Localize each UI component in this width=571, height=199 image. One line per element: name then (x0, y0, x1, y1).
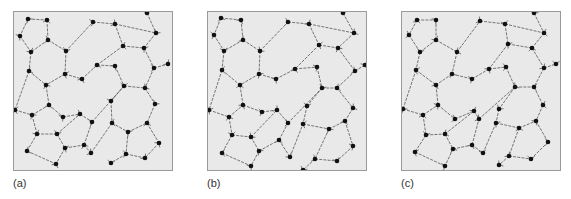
network-panel-b (207, 11, 367, 171)
hydrogen-bond (66, 22, 93, 51)
molecule-node (553, 61, 560, 66)
hydrogen-bond (229, 117, 232, 135)
hydrogen-bond (251, 110, 277, 137)
molecule-node (45, 103, 52, 109)
hydrogen-bond (15, 71, 29, 110)
molecule-node (468, 76, 474, 83)
hydrogen-bond (338, 33, 354, 48)
molecule-node (121, 42, 127, 49)
molecule-node (27, 67, 33, 74)
molecule-node (153, 100, 160, 107)
molecule-node (327, 127, 334, 133)
hydrogen-bond (483, 123, 496, 153)
molecule-node (313, 65, 319, 72)
hydrogen-bond (209, 70, 222, 110)
molecule-node (532, 11, 539, 15)
molecule-node (220, 66, 225, 73)
molecule-node (432, 36, 439, 42)
molecule-node (516, 126, 523, 131)
hydrogen-bond (436, 74, 452, 85)
molecule-node (144, 121, 151, 126)
hydrogen-bond (214, 18, 221, 35)
molecule-node (455, 48, 461, 55)
molecule-node (286, 153, 293, 160)
hydrogen-bond (147, 123, 159, 143)
molecule-node (432, 18, 439, 25)
hydrogen-bond (15, 110, 32, 115)
molecule-node (333, 157, 340, 163)
molecule-node (341, 119, 348, 125)
hydrogen-bond (505, 24, 508, 44)
hydrogen-bond (416, 70, 436, 85)
molecule-node (304, 103, 311, 109)
hydrogen-bond (115, 24, 156, 33)
hydrogen-bond (452, 52, 457, 74)
molecule-node (257, 149, 264, 156)
hydrogen-bond (92, 86, 124, 122)
molecule-node (340, 11, 347, 15)
molecule-node (336, 46, 343, 52)
molecule-node (43, 18, 50, 24)
hydrogen-bond (295, 67, 317, 69)
hydrogen-bond (240, 85, 243, 105)
hydrogen-bond (91, 123, 112, 153)
hydrogen-bond (259, 51, 260, 74)
molecule-node (126, 130, 133, 137)
molecule-node (237, 18, 244, 25)
molecule-node (143, 11, 150, 15)
hydrogen-bond (251, 151, 259, 166)
hydrogen-bond (222, 153, 251, 166)
hydrogen-bond (536, 121, 548, 142)
molecule-node (59, 115, 66, 122)
hydrogen-bond (48, 40, 66, 51)
hydrogen-bond (509, 128, 519, 156)
hydrogen-bond (229, 105, 243, 117)
hydrogen-bond (505, 24, 544, 33)
hydrogen-bond (56, 148, 65, 164)
molecule-node (351, 67, 357, 74)
molecule-node (76, 110, 82, 117)
hydrogen-bond (345, 121, 353, 146)
molecule-node (273, 106, 280, 113)
molecule-node (545, 139, 550, 146)
network-graphic-b (207, 11, 367, 171)
molecule-node (63, 146, 69, 153)
hydrogen-bond (27, 134, 37, 151)
molecule-node (476, 17, 482, 24)
molecule-node (414, 68, 420, 75)
hydrogen-bond (519, 121, 536, 128)
hydrogen-bond (343, 13, 354, 33)
molecule-node (27, 48, 34, 54)
hydrogen-bond (315, 129, 329, 159)
molecule-node (25, 147, 31, 154)
hydrogen-bond (337, 88, 353, 108)
hydrogen-bond (536, 105, 543, 121)
hydrogen-bond (57, 134, 65, 148)
molecule-node (111, 64, 118, 71)
hydrogen-bond (506, 67, 515, 87)
hydrogen-bond (309, 24, 319, 45)
hydrogen-bond (508, 44, 532, 48)
hydrogen-bond (232, 135, 251, 137)
molecule-node (352, 29, 359, 36)
molecule-node (432, 83, 439, 89)
hydrogen-bond (455, 111, 474, 119)
hydrogen-bond (147, 104, 155, 123)
hydrogen-bond (307, 88, 322, 106)
hydrogen-bond (57, 114, 80, 134)
molecule-node (16, 34, 23, 41)
molecule-node (529, 46, 536, 51)
hydrogen-bond (27, 151, 56, 164)
hydrogen-bond (290, 124, 303, 157)
molecule-node (107, 98, 114, 104)
hydrogen-bond (319, 45, 338, 48)
molecule-node (26, 17, 33, 24)
hydrogen-bond (423, 105, 438, 115)
hydrogen-bond (279, 123, 288, 140)
hydrogen-bond (144, 48, 154, 68)
hydrogen-bond (489, 67, 506, 69)
panel-label-b: (b) (207, 177, 220, 189)
hydrogen-bond (243, 105, 262, 112)
molecule-node (451, 147, 458, 153)
hydrogen-bond (222, 70, 240, 85)
